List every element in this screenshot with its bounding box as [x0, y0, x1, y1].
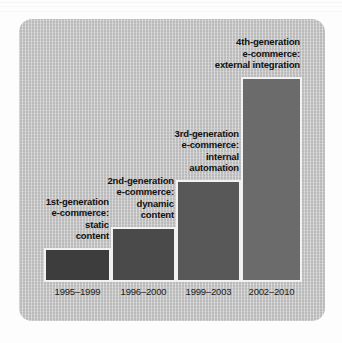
bar-caption-line: content — [2, 230, 109, 242]
scan-artifact-line — [0, 6, 342, 7]
bar-caption-line: internal — [138, 151, 239, 163]
bar-caption: 4th-generation e-commerce: external inte… — [171, 36, 300, 71]
bar — [176, 180, 241, 282]
bar — [44, 248, 111, 282]
x-axis-tick-label: 2002–2010 — [241, 285, 302, 299]
x-axis-tick-label: 1995–1999 — [44, 285, 111, 299]
bar-group: 2nd-generation e-commerce: dynamic conte… — [111, 75, 176, 282]
bar-caption-line: 4th-generation — [171, 36, 300, 48]
scan-artifact-line — [0, 2, 342, 3]
bar-caption-line: 3rd-generation — [138, 128, 239, 140]
bar-caption-line: e-commerce: — [171, 48, 300, 60]
bar-caption-line: content — [77, 209, 174, 221]
bar-caption-line: external integration — [171, 59, 300, 71]
x-axis-tick-labels: 1995–1999 1996–2000 1999–2003 2002–2010 — [44, 285, 302, 301]
x-axis-tick-label: 1999–2003 — [176, 285, 241, 299]
bar — [111, 227, 176, 282]
bar-caption-line: automation — [138, 162, 239, 174]
bar-group: 4th-generation e-commerce: external inte… — [241, 75, 302, 282]
bar-caption: 3rd-generation e-commerce: internal auto… — [138, 128, 239, 174]
chart-panel: 1st-generation e-commerce: static conten… — [19, 19, 325, 321]
bar-group: 3rd-generation e-commerce: internal auto… — [176, 75, 241, 282]
bar-caption-line: 2nd-generation — [77, 175, 174, 187]
figure-container: 1st-generation e-commerce: static conten… — [0, 0, 342, 343]
scan-artifact-line — [0, 11, 342, 12]
bar-caption-line: e-commerce: — [77, 186, 174, 198]
x-axis-tick-label: 1996–2000 — [111, 285, 176, 299]
bar-caption: 2nd-generation e-commerce: dynamic conte… — [77, 175, 174, 221]
bar-caption-line: e-commerce: — [138, 139, 239, 151]
bar — [241, 77, 302, 282]
plot-area: 1st-generation e-commerce: static conten… — [44, 75, 302, 282]
bar-caption-line: dynamic — [77, 198, 174, 210]
